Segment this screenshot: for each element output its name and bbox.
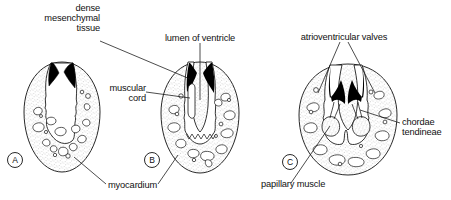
cut-off-caption: [0, 195, 451, 200]
label-dense-mesenchymal-tissue: dense mesenchymal tissue: [20, 3, 100, 34]
stage-a-drawing: [24, 62, 100, 172]
stage-marker-c-letter: C: [283, 157, 297, 167]
label-myocardium: myocardium: [108, 180, 166, 190]
papillary-muscle-right: [352, 117, 370, 137]
anatomy-diagram-figure: dense mesenchymal tissue lumen of ventri…: [0, 0, 451, 200]
label-lumen-of-ventricle: lumen of ventricle: [146, 33, 254, 43]
leader-myocardium-a: [74, 157, 106, 184]
muscular-cord-shape: [188, 84, 195, 119]
stage-marker-a-letter: A: [8, 155, 22, 165]
leader-dense-mesenchymal-tissue: [100, 41, 190, 79]
label-atrioventricular-valves: atrioventricular valves: [284, 32, 404, 42]
stage-c-drawing: [299, 64, 397, 175]
label-papillary-muscle: papillary muscle: [261, 179, 341, 189]
stage-marker-b-letter: B: [145, 155, 159, 165]
label-muscular-cord: muscular cord: [100, 83, 146, 103]
label-chordae-tendineae: chordae tendineae: [402, 117, 451, 137]
